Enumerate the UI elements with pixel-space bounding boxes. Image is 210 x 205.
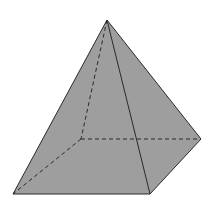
pyramid-silhouette xyxy=(13,20,201,194)
pyramid-diagram xyxy=(0,0,210,205)
